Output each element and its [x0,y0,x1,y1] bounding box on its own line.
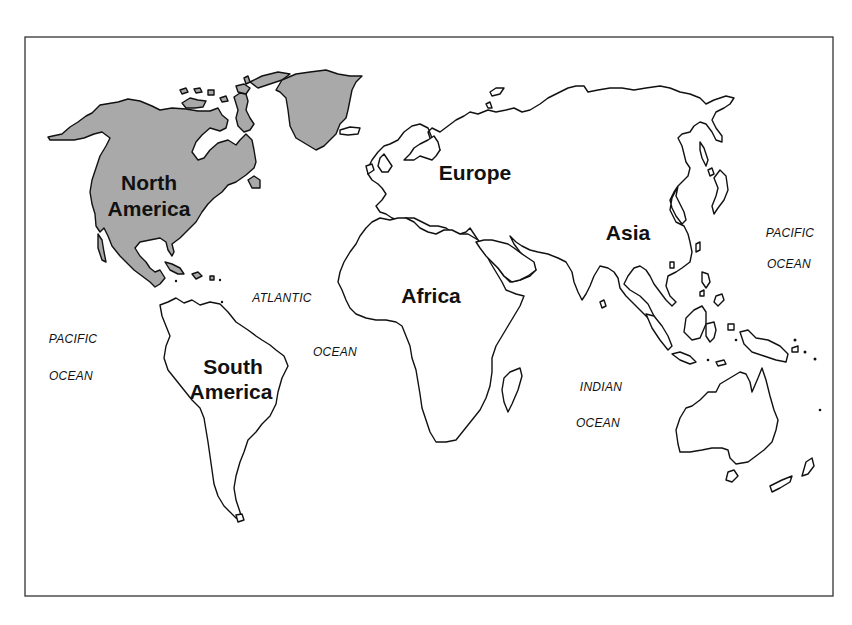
label-north-america: North [121,171,177,194]
world-map: North America South America Europe Afric… [0,0,852,625]
label-atlantic: ATLANTIC [251,291,312,305]
label-north-america-line2: America [108,197,191,220]
label-indian-line2: OCEAN [576,416,620,430]
label-indian: INDIAN [580,380,623,394]
label-pacific-east-line2: OCEAN [767,257,811,271]
label-africa: Africa [401,284,461,307]
label-pacific-east: PACIFIC [766,226,815,240]
label-pacific-west: PACIFIC [49,332,98,346]
label-asia: Asia [606,221,651,244]
label-pacific-west-line2: OCEAN [49,369,93,383]
label-south-america: South [203,355,262,378]
label-south-america-line2: America [190,380,273,403]
label-europe: Europe [439,161,511,184]
label-atlantic-line2: OCEAN [313,345,357,359]
